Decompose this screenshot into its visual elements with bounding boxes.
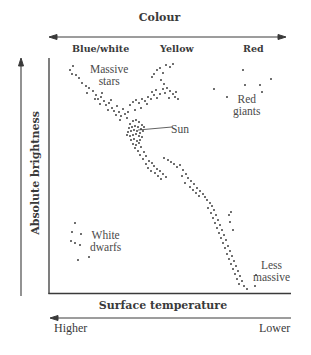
- star-dot: [130, 130, 132, 132]
- star-dot: [133, 129, 135, 131]
- star-dot: [270, 78, 272, 80]
- star-dot: [150, 98, 152, 100]
- y-axis-label: Absolute brightness: [30, 111, 41, 235]
- star-dot: [213, 209, 215, 211]
- star-dot: [234, 273, 236, 275]
- star-dot: [126, 117, 128, 119]
- star-dot: [97, 98, 99, 100]
- star-dot: [231, 255, 233, 257]
- star-dot: [211, 205, 213, 207]
- star-dot: [118, 111, 120, 113]
- less-massive-line-2: massive: [253, 271, 290, 283]
- star-dot: [163, 157, 165, 159]
- star-dot: [137, 150, 139, 152]
- less-massive-line-1: Less: [253, 259, 290, 271]
- star-dot: [144, 100, 146, 102]
- star-dot: [244, 84, 246, 86]
- star-dot: [88, 87, 90, 89]
- temperature-lower-label: Lower: [259, 322, 290, 334]
- hr-diagram: Colour Blue/white Yellow Red Absolute br…: [0, 0, 311, 355]
- star-dot: [230, 211, 232, 213]
- massive-stars-line-2: stars: [90, 75, 128, 87]
- star-dot: [138, 135, 140, 137]
- x-axis-label: Surface temperature: [99, 300, 227, 311]
- temperature-higher-label: Higher: [54, 322, 87, 334]
- star-dot: [236, 278, 238, 280]
- star-dot: [142, 130, 144, 132]
- star-dot: [70, 240, 72, 242]
- star-dot: [75, 74, 77, 76]
- star-dot: [103, 100, 105, 102]
- star-dot: [164, 92, 166, 94]
- star-dot: [179, 164, 181, 166]
- star-dot: [184, 182, 186, 184]
- star-dot: [170, 161, 172, 163]
- star-dot: [134, 147, 136, 149]
- star-dot: [226, 253, 228, 255]
- star-dot: [204, 196, 206, 198]
- star-dot: [139, 132, 141, 134]
- white-dwarfs-line-2: dwarfs: [90, 241, 121, 253]
- star-dot: [78, 77, 80, 79]
- star-dot: [129, 104, 131, 106]
- star-dot: [132, 101, 134, 103]
- star-dot: [198, 195, 200, 197]
- star-dot: [127, 131, 129, 133]
- star-dot: [218, 232, 220, 234]
- star-dot: [169, 90, 171, 92]
- star-dot: [141, 136, 143, 138]
- star-dot: [95, 94, 97, 96]
- white-dwarfs-line-1: White: [90, 229, 121, 241]
- star-dot: [155, 89, 157, 91]
- star-dot: [202, 193, 204, 195]
- star-dot: [238, 283, 240, 285]
- star-dot: [196, 187, 198, 189]
- star-dot: [162, 72, 164, 74]
- star-dot: [110, 99, 112, 101]
- star-dot: [159, 93, 161, 95]
- star-dot: [132, 134, 134, 136]
- star-dot: [139, 139, 141, 141]
- colour-axis-title: Colour: [0, 12, 311, 23]
- star-dot: [223, 234, 225, 236]
- star-dot: [151, 76, 153, 78]
- star-dot: [213, 88, 215, 90]
- star-dot: [142, 158, 144, 160]
- star-dot: [140, 146, 142, 148]
- star-dot: [131, 126, 133, 128]
- star-dot: [147, 96, 149, 98]
- star-dot: [207, 207, 209, 209]
- colour-label-red: Red: [243, 44, 264, 54]
- star-dot: [74, 222, 76, 224]
- star-dot: [165, 64, 167, 66]
- red-giants-label: Red giants: [233, 93, 260, 117]
- star-dot: [120, 115, 122, 117]
- star-dot: [185, 173, 187, 175]
- star-dot: [134, 109, 136, 111]
- star-dot: [160, 79, 162, 81]
- star-dot: [165, 176, 167, 178]
- star-dot: [229, 221, 231, 223]
- star-dot: [177, 98, 179, 100]
- star-dot: [147, 167, 149, 169]
- star-dot: [192, 189, 194, 191]
- star-dot: [230, 263, 232, 265]
- star-dot: [148, 160, 150, 162]
- star-dot: [187, 177, 189, 179]
- star-dot: [69, 69, 71, 71]
- star-dot: [119, 119, 121, 121]
- star-dot: [136, 130, 138, 132]
- star-dot: [81, 82, 83, 84]
- star-dot: [232, 229, 234, 231]
- star-dot: [113, 110, 115, 112]
- star-dot: [176, 166, 178, 168]
- star-dot: [235, 265, 237, 267]
- colour-label-blue-white: Blue/white: [72, 44, 129, 54]
- star-dot: [129, 123, 131, 125]
- star-dot: [212, 217, 214, 219]
- star-dot: [80, 233, 82, 235]
- star-dot: [145, 155, 147, 157]
- star-dot: [237, 270, 239, 272]
- star-dot: [254, 285, 256, 287]
- star-dot: [228, 214, 230, 216]
